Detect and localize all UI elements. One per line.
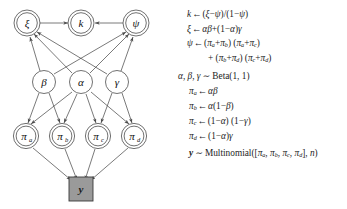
equation-xi: ξ←αβ+(1−α)γ	[178, 22, 347, 37]
equation-psi-line2: + (πb+πd) (πc+πd)	[178, 51, 347, 66]
equation-pi-c: πc←(1−α) (1−γ)	[178, 114, 347, 129]
node-pi-a-subscript: a	[29, 136, 32, 143]
node-xi[interactable]: ξ	[14, 10, 40, 36]
node-y-observed[interactable]: y	[69, 177, 93, 201]
node-pi-b[interactable]: π b	[49, 123, 74, 148]
edge-beta-xi	[30, 37, 40, 71]
edge-beta-pi-b	[49, 93, 60, 123]
edge-beta-psi	[54, 32, 126, 74]
node-pi-b-label: π	[57, 130, 63, 142]
node-psi-label: ψ	[133, 17, 140, 29]
node-xi-label: ξ	[25, 17, 30, 30]
node-k[interactable]: k	[68, 10, 94, 36]
equation-priors: α, β, γ∼Beta(1, 1)	[178, 69, 347, 84]
node-psi[interactable]: ψ	[123, 10, 149, 36]
node-gamma-label: γ	[115, 76, 120, 88]
graph-edges	[28, 23, 133, 180]
edge-gamma-xi	[37, 32, 107, 74]
edge-pi-a-y	[33, 148, 71, 180]
edge-alpha-psi	[90, 34, 129, 73]
node-pi-a[interactable]: π a	[13, 123, 38, 148]
equation-pi-b: πb←α(1−β)	[178, 99, 347, 114]
edge-alpha-pi-c	[86, 94, 96, 123]
edge-pi-d-y	[91, 148, 128, 180]
graph-panel: ξ k ψ β α	[0, 0, 176, 209]
edge-gamma-pi-d	[122, 93, 132, 123]
node-pi-c[interactable]: π c	[85, 123, 110, 148]
node-pi-d[interactable]: π d	[121, 123, 146, 148]
node-beta-label: β	[40, 76, 47, 88]
equation-k: k←(ξ−ψ)/(1−ψ)	[178, 7, 347, 22]
node-pi-d-label: π	[129, 130, 135, 142]
node-pi-c-label: π	[93, 130, 99, 142]
node-pi-c-subscript: c	[101, 136, 104, 143]
edge-pi-b-y	[65, 149, 77, 180]
edge-pi-c-y	[85, 149, 95, 180]
edge-alpha-pi-b	[64, 94, 77, 123]
node-alpha[interactable]: α	[70, 71, 93, 94]
node-alpha-label: α	[78, 76, 84, 88]
bayesian-network-graph: ξ k ψ β α	[0, 0, 176, 209]
equation-psi-line1: ψ←(πa+πb) (πa+πc)	[178, 36, 347, 51]
edge-gamma-psi	[121, 37, 133, 71]
node-pi-a-label: π	[21, 130, 27, 142]
figure-root: ξ k ψ β α	[0, 0, 347, 209]
node-beta[interactable]: β	[33, 71, 56, 94]
equation-y: y∼Multinomial([πa, πb, πc, πd], n)	[178, 146, 347, 161]
node-y-label: y	[77, 183, 84, 195]
equations-panel: k←(ξ−ψ)/(1−ψ) ξ←αβ+(1−α)γ ψ←(πa+πb) (πa+…	[178, 7, 347, 207]
equation-pi-a: πa←αβ	[178, 84, 347, 99]
graph-nodes: ξ k ψ β α	[13, 10, 149, 201]
edge-beta-pi-a	[28, 93, 39, 123]
equation-pi-d: πd←(1−α)γ	[178, 129, 347, 144]
node-gamma[interactable]: γ	[106, 71, 129, 94]
